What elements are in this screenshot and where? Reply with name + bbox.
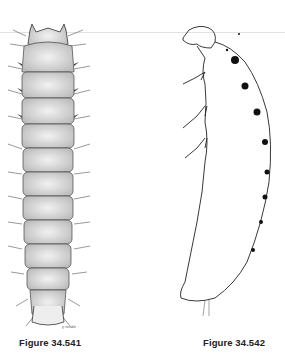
- larva-dorsal-illustration: [8, 24, 98, 334]
- artist-signature: g. venable: [62, 325, 76, 329]
- figure-caption-541: Figure 34.541: [19, 337, 81, 348]
- figure-caption-542: Figure 34.542: [203, 337, 265, 348]
- larva-lateral-illustration: [175, 22, 280, 332]
